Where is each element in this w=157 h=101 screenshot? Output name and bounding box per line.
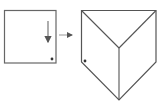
- square-corner-dot: [51, 58, 54, 61]
- fold-line-right: [119, 11, 156, 49]
- diagram-canvas: [0, 0, 157, 101]
- folded-corner-dot: [84, 60, 87, 63]
- fold-line-left: [82, 11, 120, 49]
